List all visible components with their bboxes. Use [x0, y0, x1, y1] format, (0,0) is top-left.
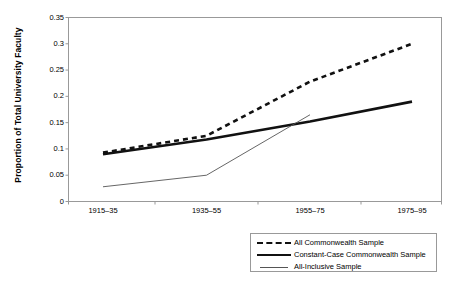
chart-legend: All Commonwealth SampleConstant-Case Com…: [250, 233, 437, 272]
legend-swatch-solid-thin: [257, 261, 291, 273]
legend-item[interactable]: All-Inclusive Sample: [251, 260, 436, 273]
legend-swatch-dashed: [257, 237, 291, 249]
legend-line-glyph: [257, 254, 291, 256]
legend-label: All Commonwealth Sample: [294, 238, 384, 247]
plot-frame: [69, 18, 442, 202]
legend-label: All-Inclusive Sample: [294, 262, 362, 271]
legend-line-glyph: [260, 267, 288, 268]
legend-line-glyph: [257, 242, 291, 244]
legend-label: Constant-Case Commonwealth Sample: [294, 250, 426, 259]
legend-swatch-solid-thick: [257, 249, 291, 261]
chart-figure: Proportion of Total University Faculty 0…: [0, 0, 457, 285]
